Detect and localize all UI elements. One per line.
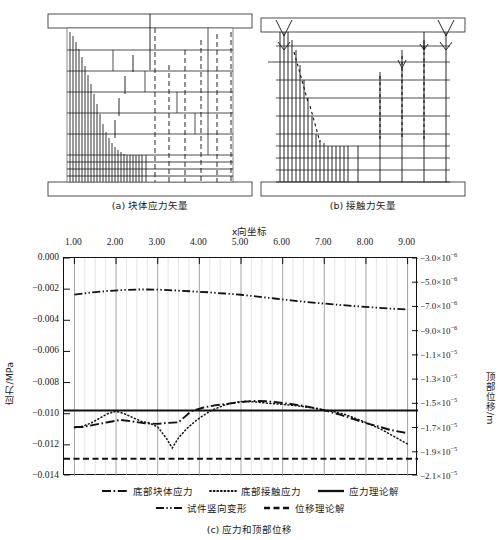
contact-force-vector-diagram — [258, 10, 468, 195]
y-axis-left-ticks: 0.000−0.002−0.004−0.006−0.008−0.010−0.01… — [0, 222, 59, 475]
y-tick-label-right: −7.0×10−6 — [420, 299, 457, 311]
y-tick-label-left: −0.004 — [32, 314, 59, 324]
y-tick-label-right: −2.1×10−5 — [420, 469, 457, 481]
subfigure-c-caption: (c) 应力和顶部位移 — [0, 522, 499, 536]
y-tick-label-right: −1.3×10−5 — [420, 372, 457, 384]
legend-swatch — [155, 504, 183, 512]
x-tick-label: 8.00 — [357, 237, 374, 247]
y-tick-label-left: −0.010 — [32, 408, 59, 418]
plot-svg — [64, 258, 418, 476]
legend-row-1: 底部块体应力底部接触应力应力理论解 — [0, 484, 499, 498]
x-tick-label: 2.00 — [107, 237, 124, 247]
legend-label: 试件竖向变形 — [187, 501, 247, 515]
x-tick-label: 4.00 — [190, 237, 207, 247]
legend-swatch — [101, 487, 129, 495]
x-tick-label: 7.00 — [315, 237, 332, 247]
subfigure-a-caption: (a) 块体应力矢量 — [45, 198, 255, 212]
y-tick-label-left: −0.012 — [32, 439, 59, 449]
legend-swatch — [209, 487, 237, 495]
y-tick-label-left: −0.002 — [32, 283, 59, 293]
y-tick-label-left: 0.000 — [38, 252, 59, 262]
x-tick-label: 1.00 — [65, 237, 82, 247]
legend-label: 底部接触应力 — [241, 484, 301, 498]
y-tick-label-right: −5.0×10−6 — [420, 275, 457, 287]
diagram-b-svg — [258, 10, 468, 198]
chart-legend: 底部块体应力底部接触应力应力理论解 试件竖向变形位移理论解 — [0, 484, 499, 518]
x-tick-label: 3.00 — [148, 237, 165, 247]
y-axis-right-title: 顶部位移/m — [483, 372, 497, 424]
y-tick-label-left: −0.014 — [32, 470, 59, 480]
legend-swatch — [263, 504, 291, 512]
legend-label: 底部块体应力 — [133, 484, 193, 498]
legend-item: 应力理论解 — [317, 484, 399, 498]
stress-displacement-chart: x向坐标 应力/MPa 顶部位移/m 1.002.003.004.005.006… — [0, 222, 499, 540]
x-tick-label: 5.00 — [232, 237, 249, 247]
y-tick-label-right: −9.0×10−6 — [420, 324, 457, 336]
y-tick-label-right: −3.0×10−6 — [420, 251, 457, 263]
subfigure-b-caption: (b) 接触力矢量 — [258, 198, 468, 212]
y-tick-label-right: −1.9×10−5 — [420, 445, 457, 457]
y-tick-label-left: −0.008 — [32, 377, 59, 387]
legend-label: 位移理论解 — [295, 501, 345, 515]
vector-diagrams: (a) 块体应力矢量 (b) 接触力矢量 — [0, 0, 499, 222]
y-tick-label-right: −1.1×10−5 — [420, 348, 457, 360]
y-tick-label-right: −1.5×10−5 — [420, 396, 457, 408]
y-tick-label-right: −1.7×10−5 — [420, 421, 457, 433]
legend-swatch — [317, 487, 345, 495]
figure-root: (a) 块体应力矢量 (b) 接触力矢量 x向坐标 应力/MPa 顶部位移/m … — [0, 0, 499, 540]
diagram-a-svg — [45, 10, 255, 198]
plot-area — [63, 257, 417, 475]
legend-label: 应力理论解 — [349, 484, 399, 498]
x-tick-label: 9.00 — [398, 237, 415, 247]
legend-row-2: 试件竖向变形位移理论解 — [0, 501, 499, 515]
x-axis-title: x向坐标 — [0, 224, 499, 238]
legend-item: 试件竖向变形 — [155, 501, 247, 515]
y-tick-label-left: −0.006 — [32, 345, 59, 355]
legend-item: 底部块体应力 — [101, 484, 193, 498]
legend-item: 底部接触应力 — [209, 484, 301, 498]
block-stress-vector-diagram — [45, 10, 255, 195]
legend-item: 位移理论解 — [263, 501, 345, 515]
x-tick-label: 6.00 — [273, 237, 290, 247]
